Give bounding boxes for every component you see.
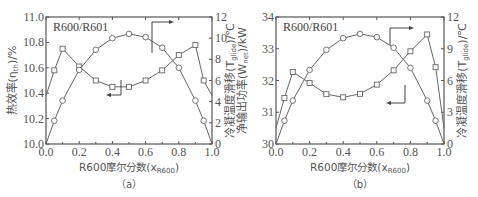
y-left-tick-label: 32 — [262, 74, 274, 88]
circle-marker — [374, 34, 380, 40]
circle-marker — [408, 65, 414, 71]
x-tick-label: 0.8 — [171, 145, 186, 159]
circle-marker — [391, 45, 397, 51]
y-left-tick-label: 30 — [262, 137, 274, 151]
x-tick-label: 0.2 — [302, 145, 317, 159]
x-tick-label: 0.6 — [369, 145, 384, 159]
y-right-tick-label: 9 — [447, 42, 453, 56]
square-marker — [201, 78, 206, 83]
circle-marker — [110, 35, 116, 41]
circle-marker — [76, 67, 82, 73]
y-right-tick-label: 3 — [447, 105, 453, 119]
chart-title: R600/R601 — [53, 20, 108, 34]
y-left-tick-label: 31 — [262, 105, 274, 119]
circle-marker — [143, 34, 149, 40]
square-marker — [341, 95, 346, 100]
y-left-tick-label: 10.8 — [23, 35, 44, 49]
x-tick-label: 0.6 — [138, 145, 153, 159]
y-left-tick-label: 34 — [262, 10, 274, 24]
square-marker — [93, 78, 98, 83]
y-left-axis-label: 热效率(ηth)/% — [5, 46, 20, 116]
circle-marker — [193, 98, 199, 104]
circle-marker — [307, 67, 313, 73]
y-left-tick-label: 10.0 — [23, 137, 44, 151]
y-right-tick-label: 2 — [215, 116, 221, 130]
circle-marker — [290, 98, 296, 104]
x-axis-label: R600摩尔分数(xR600) — [310, 161, 410, 175]
square-marker — [374, 82, 379, 87]
square-marker — [127, 84, 132, 89]
y-right-tick-label: 12 — [447, 10, 459, 24]
x-tick-label: 0.8 — [403, 145, 418, 159]
y-right-tick-label: 8 — [215, 52, 221, 66]
square-marker — [307, 81, 312, 86]
y-right-axis-label: 冷凝温度滑移(Tglide)/℃ — [455, 23, 470, 137]
y-left-tick-label: 10.4 — [23, 86, 44, 100]
square-marker — [193, 42, 198, 47]
y-right-tick-label: 6 — [215, 74, 221, 88]
chart-panel-b: 0.00.20.40.60.81.03031323334036912R600/R… — [235, 10, 470, 190]
y-left-tick-label: 33 — [262, 42, 274, 56]
circle-marker — [159, 45, 165, 51]
square-marker — [52, 68, 57, 73]
y-left-axis-label: 净输出功率(Wnet)/kW — [235, 27, 250, 134]
chart-panel-a: 0.00.20.40.60.81.010.010.210.410.610.811… — [5, 10, 238, 190]
square-marker — [60, 46, 65, 51]
circle-marker — [60, 98, 66, 104]
x-tick-label: 0.4 — [336, 145, 351, 159]
figure: 0.00.20.40.60.81.010.010.210.410.610.811… — [0, 0, 478, 197]
square-marker — [143, 78, 148, 83]
panel-caption: （b） — [347, 179, 373, 190]
square-marker — [391, 68, 396, 73]
circle-marker — [282, 118, 288, 124]
circle-marker — [324, 47, 330, 53]
y-right-tick-label: 0 — [447, 137, 453, 151]
square-marker — [324, 92, 329, 97]
square-marker — [282, 95, 287, 100]
y-left-tick-label: 10.2 — [23, 112, 44, 126]
y-left-tick-label: 11.0 — [23, 10, 44, 24]
square-marker — [358, 91, 363, 96]
y-right-tick-label: 0 — [215, 137, 221, 151]
square-marker — [408, 49, 413, 54]
circle-marker — [424, 98, 430, 104]
x-tick-label: 0.2 — [72, 145, 87, 159]
y-left-tick-label: 10.6 — [23, 61, 44, 75]
left-axis-arrow-icon — [390, 85, 405, 103]
circle-marker — [176, 65, 182, 71]
circle-marker — [126, 31, 132, 37]
y-right-tick-label: 12 — [215, 10, 227, 24]
y-right-tick-label: 4 — [215, 95, 221, 109]
series-line-square — [276, 34, 444, 128]
x-tick-label: 0.4 — [105, 145, 120, 159]
panel-caption: （a） — [116, 179, 142, 190]
series-line-circle — [276, 34, 444, 144]
square-marker — [176, 53, 181, 58]
square-marker — [110, 84, 115, 89]
square-marker — [290, 69, 295, 74]
circle-marker — [340, 35, 346, 41]
square-marker — [160, 68, 165, 73]
circle-marker — [201, 118, 207, 124]
square-marker — [425, 32, 430, 37]
chart-title: R600/R601 — [283, 20, 338, 34]
x-axis-label: R600摩尔分数(xR600) — [79, 161, 179, 175]
circle-marker — [52, 118, 58, 124]
y-right-tick-label: 6 — [447, 74, 453, 88]
right-axis-arrow-icon — [390, 28, 410, 45]
square-marker — [433, 65, 438, 70]
circle-marker — [433, 118, 439, 124]
circle-marker — [357, 31, 363, 37]
circle-marker — [93, 47, 99, 53]
